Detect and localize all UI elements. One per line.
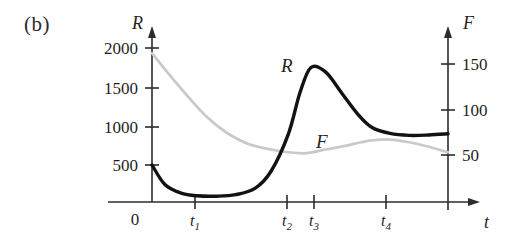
right-axis-name: F xyxy=(462,13,475,33)
figure-panel: (b) 2000 1500 1000 500 R 150 100 50 F xyxy=(0,0,506,251)
series-line-f xyxy=(152,53,448,153)
left-axis: 2000 1500 1000 500 R xyxy=(104,13,159,202)
bottom-tick-label-t1: t1 xyxy=(190,212,200,232)
bottom-tick-label-t2: t2 xyxy=(282,212,292,232)
right-axis: 150 100 50 F xyxy=(441,13,488,210)
right-axis-arrow xyxy=(444,26,452,38)
bottom-tick-label-t4: t4 xyxy=(381,212,391,232)
bottom-axis-name: t xyxy=(484,212,490,232)
left-axis-name: R xyxy=(131,13,143,33)
bottom-tick-label-t3: t3 xyxy=(309,212,319,232)
origin-label: 0 xyxy=(131,210,140,229)
curve-label-f: F xyxy=(315,131,328,152)
right-tick-label-100: 100 xyxy=(462,101,488,120)
right-tick-label-50: 50 xyxy=(462,146,479,165)
left-tick-label-1500: 1500 xyxy=(104,79,138,98)
right-tick-label-150: 150 xyxy=(462,55,488,74)
left-axis-arrow xyxy=(148,26,156,38)
chart-svg: 2000 1500 1000 500 R 150 100 50 F 0 xyxy=(0,0,506,251)
bottom-axis-arrow xyxy=(468,198,480,206)
left-tick-label-2000: 2000 xyxy=(104,39,138,58)
curve-label-r: R xyxy=(280,55,293,76)
left-tick-label-1000: 1000 xyxy=(104,118,138,137)
bottom-axis: 0 t1 t2 t3 t4 t xyxy=(108,195,490,232)
left-tick-label-500: 500 xyxy=(113,156,139,175)
series-line-r xyxy=(152,66,448,196)
